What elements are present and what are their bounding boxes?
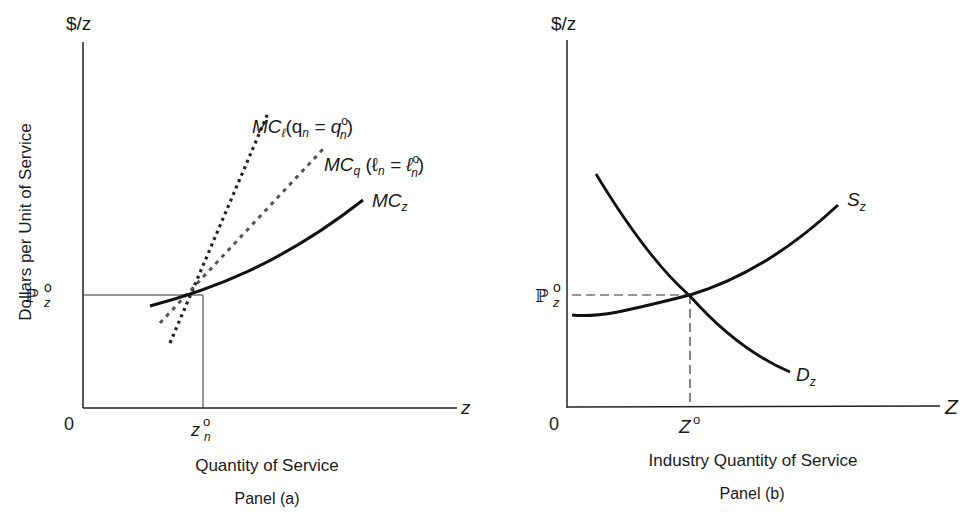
panel-a-quantity-label: z: [190, 420, 200, 440]
panel-b-x-axis: [567, 406, 940, 407]
panel-a-y-unit: $/z: [66, 13, 91, 34]
mc-l-curve: [170, 113, 268, 343]
panel-a-quantity-label-sub: n: [204, 430, 211, 444]
mc-q-label: MCq (ℓn = ℓon): [324, 152, 424, 180]
panel-a: $/z Dollars per Unit of Service z 0 ℙ o …: [16, 13, 471, 507]
figure-canvas: $/z Dollars per Unit of Service z 0 ℙ o …: [0, 0, 971, 522]
panel-b-price-label-sub: z: [552, 295, 560, 310]
panel-a-price-label-sub: z: [43, 295, 51, 310]
panel-b-price-label: ℙ: [535, 285, 549, 306]
supply-label: Sz: [847, 189, 866, 214]
panel-b-y-unit: $/z: [551, 13, 576, 34]
mc-z-curve: [150, 200, 363, 306]
panel-b-caption: Panel (b): [720, 485, 785, 502]
panel-a-quantity-label-sup: o: [203, 414, 210, 429]
panel-a-caption: Panel (a): [235, 490, 300, 507]
panel-a-price-label: ℙ: [25, 285, 39, 306]
panel-a-origin: 0: [64, 414, 74, 434]
panel-b-origin: 0: [549, 414, 559, 434]
panel-b-x-axis-title: Industry Quantity of Service: [649, 451, 858, 470]
panel-a-price-label-sup: o: [44, 279, 52, 295]
panel-b-x-symbol: Z: [944, 395, 959, 418]
panel-a-x-symbol: z: [460, 397, 471, 418]
supply-curve: [572, 205, 838, 316]
panel-b-quantity-label-sup: o: [693, 412, 700, 427]
mc-z-label: MCz: [372, 190, 408, 214]
demand-curve: [596, 174, 790, 372]
panel-b-quantity-label: Z: [678, 416, 692, 437]
panel-a-x-axis-title: Quantity of Service: [195, 456, 339, 475]
panel-b: $/z Z 0 ℙ o z Z o Sz Dz Industry Quantit…: [535, 13, 959, 502]
demand-label: Dz: [796, 364, 816, 389]
panel-b-price-label-sup: o: [553, 279, 561, 295]
mc-l-label: MCℓ(qn = qon): [252, 114, 353, 142]
